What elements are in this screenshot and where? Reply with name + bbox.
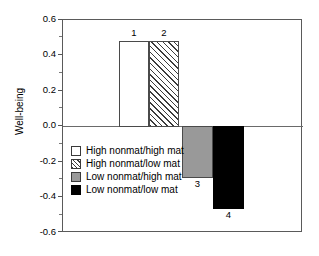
legend-item-1[interactable]: High nonmat/high mat: [71, 144, 221, 157]
y-tick-label-1: 0.4: [22, 49, 56, 59]
y-tick-label-2: 0.2: [22, 85, 56, 95]
bar-1[interactable]: [119, 41, 149, 127]
bar-1-label: 1: [119, 28, 149, 38]
bar-4-label: 4: [213, 210, 244, 220]
legend-item-2[interactable]: High nonmat/low mat: [71, 157, 221, 170]
y-tick-label-6: -0.6: [22, 227, 56, 237]
bar-2[interactable]: [149, 41, 179, 127]
legend-label-3: Low nonmat/high mat: [86, 171, 182, 182]
y-tick-label-3: 0.0: [22, 120, 56, 130]
bar-2-label: 2: [149, 28, 179, 38]
y-tick-label-5: -0.4: [22, 191, 56, 201]
y-tick-label-0: 0.6: [22, 14, 56, 24]
legend-swatch-black-icon: [71, 185, 81, 195]
legend-label-1: High nonmat/high mat: [86, 145, 184, 156]
legend-swatch-hatched-icon: [71, 159, 81, 169]
legend-item-4[interactable]: Low nonmat/low mat: [71, 183, 221, 196]
legend-item-3[interactable]: Low nonmat/high mat: [71, 170, 221, 183]
y-axis-tick-labels: 0.6 0.4 0.2 0.0 -0.2 -0.4 -0.6: [22, 0, 56, 256]
legend-label-2: High nonmat/low mat: [86, 158, 180, 169]
legend-swatch-gray-icon: [71, 172, 81, 182]
legend-swatch-white-icon: [71, 146, 81, 156]
legend: High nonmat/high mat High nonmat/low mat…: [71, 144, 221, 196]
plot-area: 1 2 3 4 High nonmat/high mat High nonmat…: [62, 19, 302, 232]
legend-label-4: Low nonmat/low mat: [86, 184, 178, 195]
y-tick-label-4: -0.2: [22, 156, 56, 166]
bar-chart-figure: Well-being 0.6 0.4 0.2 0.0 -0.2 -0.4 -0.…: [0, 0, 319, 256]
